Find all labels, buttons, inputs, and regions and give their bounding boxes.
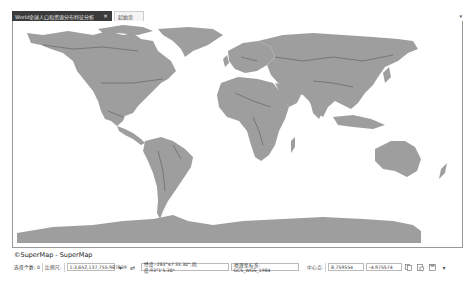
south-america [143,137,193,219]
coordinates-value: 经度:-283°47'33.30",纬度:93°1'5.30" [144,261,226,273]
antarctica [17,215,421,243]
world-map[interactable] [13,21,463,248]
center-label: 中心点: [305,263,327,272]
japan [383,67,391,83]
australia [375,141,421,177]
southeast-asia-islands [333,115,385,129]
scale-input[interactable]: 1:3,652,137,755.987839 [67,263,115,271]
crs-value: 地理坐标系: GCS_WGS_1984 [234,262,296,273]
africa [217,77,289,161]
map-window[interactable] [12,21,463,248]
tab-start-page[interactable]: 起始页 [114,11,144,21]
center-y-input[interactable]: -4.975574 [366,263,402,271]
coordinates-display: 经度:-283°47'33.30",纬度:93°1'5.30" [141,263,229,271]
map-copyright: ©SuperMap - SuperMap [14,251,93,259]
lock-scale-icon[interactable]: ⇄ [129,263,137,271]
selection-count: 选择个数: 0 [12,263,43,272]
tab-label: World全球人口和资源分布特征分析 [15,13,94,20]
scale-dropdown-icon[interactable]: ▾ [117,263,125,271]
new-zealand [439,163,447,179]
north-america [27,31,176,126]
close-icon[interactable]: × [103,11,108,21]
europe [228,41,275,73]
tab-label: 起始页 [118,13,133,20]
copy-icon[interactable] [404,263,412,271]
madagascar [291,137,295,153]
central-america [117,126,145,145]
scale-label: 比例尺: [43,263,65,272]
crs-display[interactable]: 地理坐标系: GCS_WGS_1984 [231,263,299,271]
greenland [158,27,223,57]
save-icon[interactable] [428,263,436,271]
tab-list-dropdown-icon[interactable]: ▾ [459,13,462,19]
center-x-input[interactable]: 8.759554 [328,263,364,271]
more-dropdown-icon[interactable]: ▾ [440,263,448,271]
tab-world-map[interactable]: World全球人口和资源分布特征分析 × [12,11,112,21]
uk [223,55,229,67]
center-y-value: -4.975574 [369,265,393,270]
status-bar: 选择个数: 0 比例尺: 1:3,652,137,755.987839 ▾ ⇄ … [12,262,472,272]
paste-icon[interactable] [416,263,424,271]
center-x-value: 8.759554 [331,265,353,270]
